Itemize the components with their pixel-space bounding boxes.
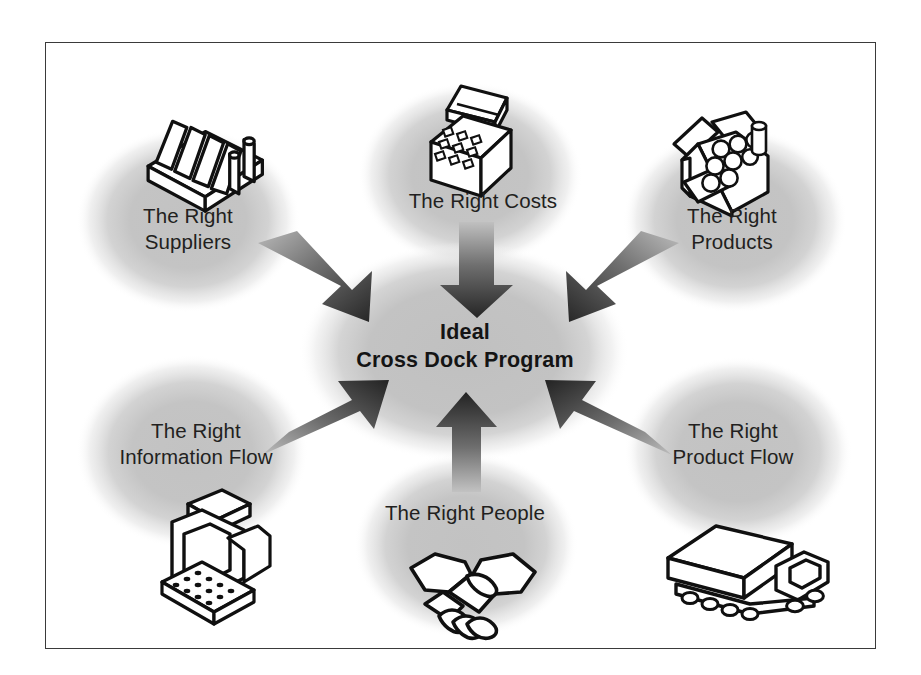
node-label-costs: The Right Costs [385,188,581,214]
diagram-root: The Right Suppliers The Right Costs The … [0,0,921,675]
node-label-people: The Right People [361,500,569,526]
node-label-product-flow: The Right Product Flow [640,418,826,470]
center-node-label: Ideal Cross Dock Program [320,318,610,374]
node-label-products: The Right Products [644,203,820,255]
delivery-truck-icon [668,526,828,620]
node-label-information-flow: The Right Information Flow [86,418,306,470]
node-label-suppliers: The Right Suppliers [100,203,276,255]
